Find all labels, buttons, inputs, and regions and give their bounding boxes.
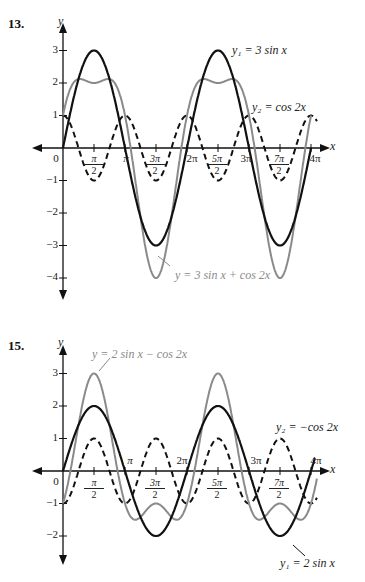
- y-tick: −2: [40, 205, 58, 217]
- figure-canvas: [0, 0, 365, 582]
- x-tick-5pi-over-2: 5π2: [207, 477, 227, 500]
- x-tick-4pi: 4π: [303, 152, 327, 164]
- x-tick-3pi-over-2: 3π2: [145, 153, 165, 176]
- x-tick-pi-over-2: π2: [84, 477, 104, 500]
- y-tick: 3: [40, 43, 58, 55]
- y-tick: 1: [40, 431, 58, 443]
- legend-y1: y₁ = 2 sin x: [280, 556, 335, 571]
- y-tick: 2: [40, 75, 58, 87]
- problem-number-13: 13.: [8, 16, 24, 32]
- y-tick: 2: [40, 398, 58, 410]
- x-tick-3pi: 3π: [234, 152, 258, 164]
- legend-y2: y₂ = −cos 2x: [276, 420, 338, 435]
- problem-number-15: 15.: [8, 338, 24, 354]
- y-tick: 3: [40, 366, 58, 378]
- legend-y1: y₁ = 3 sin x: [232, 43, 287, 58]
- x-tick-5pi-over-2: 5π2: [207, 153, 227, 176]
- x-tick-3pi: 3π: [244, 454, 268, 466]
- x-tick-7pi-over-2: 7π2: [269, 477, 289, 500]
- legend-sum: y = 2 sin x − cos 2x: [92, 347, 187, 362]
- y-tick: −1: [40, 496, 58, 508]
- y-axis-label: y: [58, 335, 63, 350]
- x-tick-7pi-over-2: 7π2: [269, 153, 289, 176]
- legend-y2: y₂ = cos 2x: [252, 100, 306, 115]
- y-axis-label: y: [58, 14, 63, 29]
- x-tick-3pi-over-2: 3π2: [145, 477, 165, 500]
- y-tick: 1: [40, 108, 58, 120]
- x-tick-0: 0: [44, 475, 68, 487]
- y-tick: −3: [40, 238, 58, 250]
- x-tick-pi: π: [118, 454, 142, 466]
- x-tick-pi: π: [114, 152, 138, 164]
- x-axis-label: x: [330, 139, 335, 154]
- x-tick-0: 0: [44, 152, 68, 164]
- y-tick: −2: [40, 528, 58, 540]
- x-tick-4pi: 4π: [304, 454, 328, 466]
- x-tick-2pi: 2π: [170, 454, 194, 466]
- y-tick: −1: [40, 173, 58, 185]
- legend-sum: y = 3 sin x + cos 2x: [175, 268, 270, 283]
- x-tick-2pi: 2π: [180, 152, 204, 164]
- x-tick-pi-over-2: π2: [84, 153, 104, 176]
- x-axis-label: x: [330, 462, 335, 477]
- y-tick: −4: [40, 270, 58, 282]
